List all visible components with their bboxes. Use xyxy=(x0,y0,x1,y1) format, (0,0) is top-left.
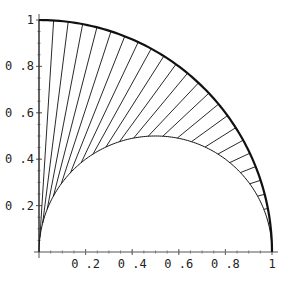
y-tick-label: 0 .6 xyxy=(5,106,34,120)
y-tick-label: 0 .8 xyxy=(5,59,34,73)
x-tick-label: 0 .4 xyxy=(118,257,147,271)
x-tick-label: 0 .6 xyxy=(164,257,193,271)
curves xyxy=(39,20,272,252)
y-tick-label: 0 .4 xyxy=(5,152,34,166)
y-tick-label: 1 xyxy=(27,13,34,27)
x-tick-label: 1 xyxy=(268,257,275,271)
y-tick-label: 0 .2 xyxy=(5,199,34,213)
x-tick-label: 0 .8 xyxy=(211,257,240,271)
x-tick-label: 0 .2 xyxy=(71,257,100,271)
plot-area: 0 .20 .40 .60 .810 .20 .40 .60 .81 xyxy=(0,0,291,284)
chart: 0 .20 .40 .60 .810 .20 .40 .60 .81 xyxy=(0,0,291,284)
